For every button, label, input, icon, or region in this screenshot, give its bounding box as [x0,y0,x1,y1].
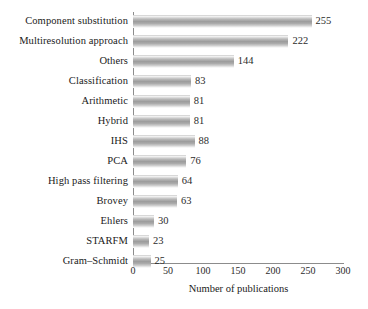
bar-row: Classification83 [0,71,368,91]
category-label: Ehlers [0,211,128,231]
bar [133,55,234,68]
x-tick-label: 200 [253,265,293,276]
bar-row: Ehlers30 [0,211,368,231]
bar-value-label: 144 [238,51,254,71]
bar-value-label: 88 [199,131,210,151]
category-label: Classification [0,71,128,91]
bar-row: Arithmetic81 [0,91,368,111]
bar [133,215,154,228]
bar [133,155,186,168]
x-tick-label: 150 [218,265,258,276]
bar [133,115,190,128]
category-label: Gram–Schmidt [0,251,128,271]
bar-row: Hybrid81 [0,111,368,131]
bar-value-label: 81 [194,111,205,131]
x-axis-title: Number of publications [133,283,344,294]
bar [133,195,177,208]
bar [133,75,191,88]
bar-row: High pass filtering64 [0,171,368,191]
category-label: PCA [0,151,128,171]
bar-value-label: 255 [316,11,332,31]
bar-value-label: 83 [195,71,206,91]
category-label: STARFM [0,231,128,251]
plot-area: Component substitution255Multiresolution… [0,0,368,309]
category-label: Others [0,51,128,71]
x-tick-label: 300 [323,265,363,276]
bar-value-label: 30 [158,211,169,231]
category-label: Arithmetic [0,91,128,111]
bar [133,175,178,188]
bar-row: STARFM23 [0,231,368,251]
category-label: High pass filtering [0,171,128,191]
bar-value-label: 76 [190,151,201,171]
category-label: IHS [0,131,128,151]
category-label: Component substitution [0,11,128,31]
bar-row: PCA76 [0,151,368,171]
x-tick-label: 0 [113,265,153,276]
bar [133,15,312,28]
bar-chart-figure: Component substitution255Multiresolution… [0,0,368,309]
bar-value-label: 81 [194,91,205,111]
bar [133,135,195,148]
bar-row: IHS88 [0,131,368,151]
bar-value-label: 64 [182,171,193,191]
bar-row: Component substitution255 [0,11,368,31]
x-tick-label: 250 [288,265,328,276]
bar [133,235,149,248]
category-label: Multiresolution approach [0,31,128,51]
x-tick-label: 100 [183,265,223,276]
x-tick-label: 50 [148,265,188,276]
bar [133,95,190,108]
bar-value-label: 23 [153,231,164,251]
bar-value-label: 63 [181,191,192,211]
bar-value-label: 222 [292,31,308,51]
bar-row: Others144 [0,51,368,71]
category-label: Hybrid [0,111,128,131]
category-label: Brovey [0,191,128,211]
bar [133,35,288,48]
bar-row: Multiresolution approach222 [0,31,368,51]
bar-row: Brovey63 [0,191,368,211]
